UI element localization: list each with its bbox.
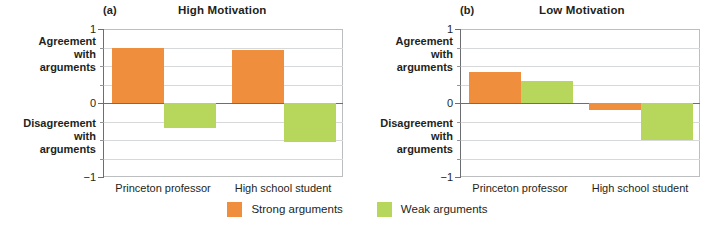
bar-strong-1 [469, 72, 521, 103]
agreement-line-2: with [431, 48, 453, 60]
bar-weak-2 [641, 103, 693, 140]
agreement-line-3: arguments [40, 61, 96, 73]
figure-container: (a) High Motivation Agreement with argum… [0, 0, 715, 227]
chart-legend: Strong arguments Weak arguments [0, 198, 715, 220]
panel-a-disagreement-label: Disagreement with arguments [0, 117, 96, 156]
panel-a-xlabel-1: Princeton professor [103, 182, 223, 194]
disagreement-line-3: arguments [397, 143, 453, 155]
bar-weak-1 [521, 81, 573, 103]
bar-strong-2 [589, 103, 641, 110]
legend-swatch-strong-icon [227, 202, 242, 217]
legend-label-strong: Strong arguments [251, 203, 342, 215]
legend-label-weak: Weak arguments [401, 203, 488, 215]
agreement-line-3: arguments [397, 61, 453, 73]
legend-item-strong: Strong arguments [227, 202, 342, 217]
bar-weak-2 [284, 103, 336, 142]
y-tick-label: 0 [447, 98, 453, 109]
disagreement-line-2: with [74, 130, 96, 142]
y-tick-label: 0 [90, 98, 96, 109]
panel-b-disagreement-label: Disagreement with arguments [357, 117, 453, 156]
panel-a-xlabel-2: High school student [223, 182, 343, 194]
panel-low-motivation: (b) Low Motivation Agreement with argume… [357, 0, 715, 196]
legend-item-weak: Weak arguments [377, 202, 488, 217]
y-tick-label: −1 [440, 172, 453, 183]
agreement-line-1: Agreement [39, 35, 96, 47]
y-tick-label: 1 [447, 24, 453, 35]
panel-b-bars [461, 29, 700, 177]
disagreement-line-3: arguments [40, 143, 96, 155]
panel-high-motivation: (a) High Motivation Agreement with argum… [0, 0, 358, 196]
panel-b-xlabel-1: Princeton professor [460, 182, 580, 194]
panel-b-title: Low Motivation [539, 4, 625, 16]
panel-a-title: High Motivation [178, 4, 267, 16]
y-tick-label: 1 [90, 24, 96, 35]
panel-b-plot-area: 10−1 [460, 29, 700, 177]
panel-b-xlabel-2: High school student [580, 182, 700, 194]
panel-b-tag: (b) [460, 4, 474, 16]
panel-a-plot-area: 10−1 [103, 29, 343, 177]
y-tick-major [98, 177, 104, 178]
panel-a-tag: (a) [103, 4, 117, 16]
disagreement-line-1: Disagreement [380, 117, 453, 129]
panel-b-agreement-label: Agreement with arguments [357, 35, 453, 74]
disagreement-line-2: with [431, 130, 453, 142]
agreement-line-1: Agreement [396, 35, 453, 47]
y-tick-major [455, 177, 461, 178]
bar-strong-2 [232, 50, 284, 103]
agreement-line-2: with [74, 48, 96, 60]
bar-weak-1 [164, 103, 216, 128]
bar-strong-1 [112, 48, 164, 103]
disagreement-line-1: Disagreement [23, 117, 96, 129]
y-tick-label: −1 [83, 172, 96, 183]
legend-swatch-weak-icon [377, 202, 392, 217]
panel-a-bars [104, 29, 343, 177]
panel-a-agreement-label: Agreement with arguments [0, 35, 96, 74]
